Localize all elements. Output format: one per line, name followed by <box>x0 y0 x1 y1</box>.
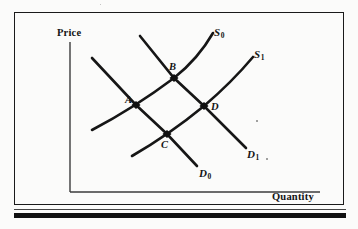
bottom-rule-thin <box>14 209 346 210</box>
intersection-markers <box>132 74 209 138</box>
curve-label-d1-text: D <box>247 148 255 160</box>
bottom-rule <box>14 213 346 218</box>
point-label-d: D <box>211 101 219 112</box>
scan-speck <box>266 158 268 160</box>
curve-label-s1: S1 <box>254 48 264 60</box>
curve-s0 <box>92 33 213 130</box>
point-label-c: C <box>161 139 168 150</box>
curve-s1 <box>132 57 253 156</box>
point-label-b: B <box>169 61 176 72</box>
x-axis-label: Quantity <box>272 191 314 202</box>
y-axis-label: Price <box>57 27 81 38</box>
supply-demand-chart <box>14 12 344 205</box>
curve-label-s1-sub: 1 <box>261 53 265 62</box>
axis-lines <box>70 42 320 192</box>
curve-label-d0-text: D <box>199 167 207 179</box>
scan-speck <box>100 4 101 5</box>
curve-label-s1-text: S <box>254 48 260 60</box>
point-label-a: A <box>125 94 132 105</box>
curve-label-d1: D1 <box>247 148 259 160</box>
curve-label-d0: D0 <box>199 167 211 179</box>
curve-label-d1-sub: 1 <box>255 153 259 162</box>
curve-label-s0: S0 <box>214 26 224 38</box>
curve-label-s0-sub: 0 <box>221 31 225 40</box>
curve-label-s0-text: S <box>214 26 220 38</box>
figure-page: Price Quantity S0 S1 D0 D1 A B C D <box>0 0 358 229</box>
scan-speck <box>256 120 258 122</box>
curve-label-d0-sub: 0 <box>207 172 211 181</box>
